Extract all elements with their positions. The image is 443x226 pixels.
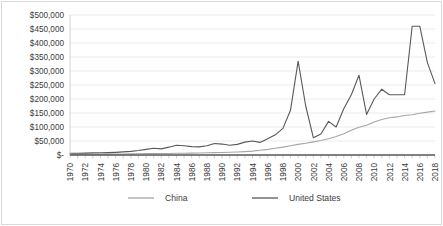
y-axis-tick-labels: $500,000$450,000$400,000$350,000$300,000… <box>30 11 65 160</box>
x-axis-tick-label: 1980 <box>142 163 151 182</box>
chart-legend: ChinaUnited States <box>128 193 341 203</box>
x-axis-tick-label: 2018 <box>431 163 440 182</box>
x-axis-tick-label: 2004 <box>325 163 334 182</box>
x-axis-tick-label: 2006 <box>340 163 349 182</box>
x-axis-tick-label: 1978 <box>127 163 136 182</box>
series-line-china <box>70 111 435 154</box>
y-axis-tick-label: $100,000 <box>30 123 65 132</box>
y-axis-tick-label: $200,000 <box>30 95 65 104</box>
x-axis-tick-labels: 1970197219741976197819801982198419861988… <box>66 163 440 182</box>
y-axis-tick-label: $250,000 <box>30 81 65 90</box>
gridlines <box>70 15 435 155</box>
legend-label-china: China <box>165 193 188 203</box>
y-axis-tick-label: $150,000 <box>30 109 65 118</box>
x-axis-tick-label: 1988 <box>203 163 212 182</box>
chart-container: $500,000$450,000$400,000$350,000$300,000… <box>1 1 442 225</box>
chart-plot-area: $500,000$450,000$400,000$350,000$300,000… <box>2 2 443 226</box>
legend-label-united-states: United States <box>289 193 341 203</box>
x-axis-tick-label: 1972 <box>81 163 90 182</box>
x-axis-tick-label: 2012 <box>386 163 395 182</box>
data-series-lines <box>70 26 435 154</box>
y-axis-tick-label: $- <box>57 151 65 160</box>
y-axis-tick-label: $50,000 <box>34 137 64 146</box>
x-axis-tick-label: 1992 <box>233 163 242 182</box>
x-axis-tick-label: 2002 <box>310 163 319 182</box>
line-chart: $500,000$450,000$400,000$350,000$300,000… <box>2 2 443 226</box>
x-axis-tick-label: 1994 <box>249 163 258 182</box>
x-axis-tick-label: 1976 <box>112 163 121 182</box>
x-axis-tick-label: 1996 <box>264 163 273 182</box>
y-axis-tick-label: $500,000 <box>30 11 65 20</box>
x-axis-tick-label: 2016 <box>416 163 425 182</box>
x-axis-tick-label: 2000 <box>294 163 303 182</box>
x-axis-tick-label: 2014 <box>401 163 410 182</box>
y-axis-tick-label: $350,000 <box>30 53 65 62</box>
y-axis-tick-label: $450,000 <box>30 25 65 34</box>
y-axis-tick-label: $400,000 <box>30 39 65 48</box>
x-axis-tick-label: 1998 <box>279 163 288 182</box>
x-axis-tick-label: 1970 <box>66 163 75 182</box>
series-line-united-states <box>70 26 435 153</box>
x-axis-tick-label: 1990 <box>218 163 227 182</box>
x-axis-tick-label: 1982 <box>157 163 166 182</box>
x-axis-tick-label: 2010 <box>370 163 379 182</box>
y-axis-tick-label: $300,000 <box>30 67 65 76</box>
x-axis-tick-label: 1986 <box>188 163 197 182</box>
x-axis-tick-label: 1984 <box>173 163 182 182</box>
x-axis-tick-label: 2008 <box>355 163 364 182</box>
x-axis-tick-label: 1974 <box>97 163 106 182</box>
